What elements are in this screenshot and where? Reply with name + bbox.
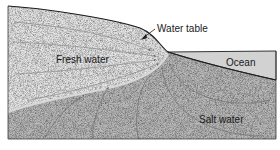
fresh-water-label: Fresh water — [56, 55, 109, 65]
water-table-label: Water table — [157, 24, 208, 34]
aquifer-diagram — [0, 0, 280, 150]
ocean-label: Ocean — [226, 58, 255, 68]
salt-water-label: Salt water — [199, 115, 243, 125]
